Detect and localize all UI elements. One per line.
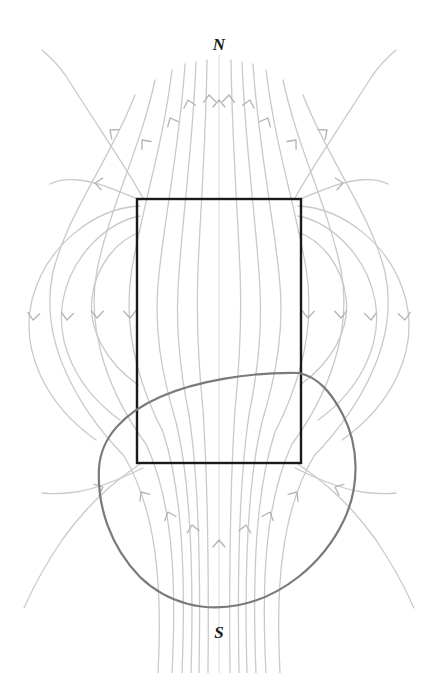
magnetic-field-figure: N S bbox=[0, 0, 436, 673]
field-line-mid2-right bbox=[264, 80, 344, 673]
field-line-inner2-left bbox=[177, 62, 199, 673]
field-line-bottomside-left bbox=[42, 468, 143, 494]
field-line-inner3-left bbox=[157, 64, 192, 673]
field-diagram-canvas: N S bbox=[0, 0, 436, 673]
field-line-inner2-right bbox=[238, 62, 260, 673]
field-line-return-left-inner bbox=[91, 232, 140, 385]
field-line-bottomside-right bbox=[295, 468, 396, 494]
field-line-return-left-mid bbox=[61, 216, 140, 420]
field-line-top-left bbox=[42, 50, 143, 198]
field-line-return-right-inner bbox=[298, 232, 347, 385]
field-line-bottom-right bbox=[298, 464, 414, 608]
north-pole-label: N bbox=[212, 35, 226, 54]
field-lines-group bbox=[24, 50, 414, 673]
closed-surface bbox=[99, 373, 356, 607]
field-line-inner3-right bbox=[246, 64, 281, 673]
field-line-mid2-left bbox=[94, 80, 174, 673]
field-line-top-right bbox=[295, 50, 396, 198]
south-pole-label: S bbox=[214, 623, 223, 642]
field-line-bottom-left bbox=[24, 464, 140, 608]
field-line-return-right-mid bbox=[298, 216, 377, 420]
